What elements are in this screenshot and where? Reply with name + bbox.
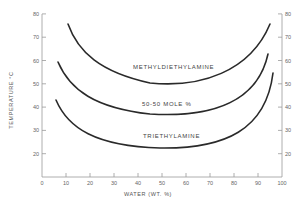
phase-diagram-chart: 2020303040405050606070708080 01020304050… — [0, 0, 301, 204]
y-tick-label: 40 — [285, 104, 291, 110]
label-50-50-mole: 50-50 MOLE % — [142, 101, 191, 107]
label-methyldiethylamine: METHYLDIETHYLAMINE — [133, 64, 214, 70]
x-tick-label: 50 — [159, 180, 165, 186]
x-tick-label: 10 — [63, 180, 69, 186]
y-tick-label: 60 — [285, 58, 291, 64]
y-tick-label: 70 — [285, 34, 291, 40]
x-tick-label: 80 — [231, 180, 237, 186]
y-tick-label: 70 — [33, 34, 39, 40]
y-tick-label: 30 — [285, 127, 291, 133]
axes — [42, 14, 282, 177]
y-tick-label: 50 — [33, 81, 39, 87]
x-tick-label: 60 — [183, 180, 189, 186]
x-axis-title: WATER (WT. %) — [124, 191, 172, 197]
y-axis-title: TEMPERATURE °C — [8, 71, 14, 128]
label-triethylamine: TRIETHYLAMINE — [143, 133, 200, 139]
y-tick-label: 30 — [33, 127, 39, 133]
y-tick-label: 20 — [33, 151, 39, 157]
y-tick-label: 80 — [33, 11, 39, 17]
x-tick-label: 90 — [255, 180, 261, 186]
y-tick-label: 20 — [285, 151, 291, 157]
x-tick-label: 40 — [135, 180, 141, 186]
x-tick-label: 0 — [40, 180, 43, 186]
y-tick-label: 50 — [285, 81, 291, 87]
curves — [56, 24, 273, 148]
x-tick-label: 20 — [87, 180, 93, 186]
x-tick-label: 70 — [207, 180, 213, 186]
y-tick-label: 80 — [285, 11, 291, 17]
y-tick-label: 40 — [33, 104, 39, 110]
x-tick-label: 30 — [111, 180, 117, 186]
y-tick-label: 60 — [33, 58, 39, 64]
curve-methyldiethylamine — [68, 24, 270, 84]
x-ticks: 0102030405060708090100 — [40, 173, 286, 186]
x-tick-label: 100 — [277, 180, 286, 186]
